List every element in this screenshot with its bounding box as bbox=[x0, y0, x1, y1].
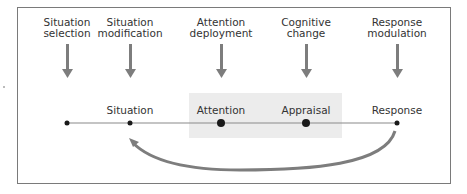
down-arrow-icon bbox=[301, 44, 312, 78]
down-arrow-icon bbox=[62, 44, 73, 78]
timeline-dot bbox=[128, 121, 133, 126]
down-arrow-icon bbox=[216, 44, 227, 78]
down-arrow-icon bbox=[125, 44, 136, 78]
diagram-graphics bbox=[0, 0, 467, 194]
timeline-dot bbox=[65, 121, 70, 126]
timeline-dot bbox=[217, 119, 225, 127]
timeline-dot bbox=[302, 119, 310, 127]
down-arrow-icon bbox=[392, 44, 403, 78]
timeline-dot bbox=[395, 121, 400, 126]
feedback-arrow-icon bbox=[133, 131, 395, 170]
